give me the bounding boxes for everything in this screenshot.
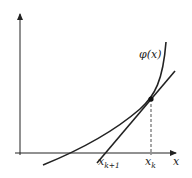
svg-text:x: x <box>173 155 180 168</box>
x-k1-label-sub: k+1 <box>104 161 120 170</box>
newton-method-diagram: φ(x) xk+1 xk x <box>0 0 192 178</box>
curve-label: φ(x) <box>139 48 162 61</box>
tangent-point <box>148 96 153 101</box>
svg-text:xk: xk <box>145 155 156 170</box>
tangent-line <box>97 71 175 163</box>
svg-text:φ(x): φ(x) <box>139 48 162 61</box>
svg-text:xk+1: xk+1 <box>98 155 120 170</box>
x-k-label-sub: k <box>151 161 156 170</box>
x-axis-label: x <box>173 155 180 168</box>
